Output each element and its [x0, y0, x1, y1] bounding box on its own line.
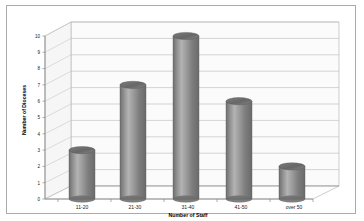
bar-11-20 [69, 147, 95, 203]
x-label-31-40: 31-40 [182, 204, 195, 210]
bar-over-50 [279, 163, 305, 203]
y-axis-title: Number of Dioceses [21, 85, 27, 135]
y-tick-label-4: 4 [37, 132, 40, 137]
y-tick-label-9: 9 [37, 50, 40, 55]
bar-top-4 [226, 98, 252, 105]
x-label-11-20: 11-20 [76, 204, 89, 210]
bar-body-1 [69, 150, 95, 199]
x-label-over-50: over 50 [286, 204, 303, 210]
y-tick-label-6: 6 [37, 99, 40, 104]
y-tick-label-7: 7 [37, 83, 40, 88]
bar-top-3 [173, 32, 199, 39]
y-tick-label-10: 10 [35, 34, 41, 39]
x-label-21-30: 21-30 [129, 204, 142, 210]
y-tick-label-8: 8 [37, 66, 40, 71]
y-tick-label-0: 0 [37, 197, 40, 202]
bar-top-5 [279, 163, 305, 170]
bar-41-50 [226, 98, 252, 203]
y-tick-label-3: 3 [37, 148, 40, 153]
bar-body-3 [173, 36, 199, 199]
bar-top-2 [120, 81, 146, 88]
y-tick-label-2: 2 [37, 164, 40, 169]
chart-container: 10 9 8 7 6 5 4 3 2 1 0 [0, 0, 364, 221]
y-tick-label-1: 1 [37, 181, 40, 186]
y-tick-label-5: 5 [37, 115, 40, 120]
bar-body-2 [120, 85, 146, 199]
chart-svg: 10 9 8 7 6 5 4 3 2 1 0 [0, 0, 364, 221]
plot-area: 10 9 8 7 6 5 4 3 2 1 0 [0, 0, 364, 221]
bar-body-4 [226, 101, 252, 199]
bar-top-1 [69, 147, 95, 154]
bar-21-30 [120, 81, 146, 202]
bar-body-5 [279, 166, 305, 199]
x-axis-title: Number of Staff [169, 212, 208, 218]
bar-31-40 [173, 32, 199, 202]
x-label-41-50: 41-50 [235, 204, 248, 210]
